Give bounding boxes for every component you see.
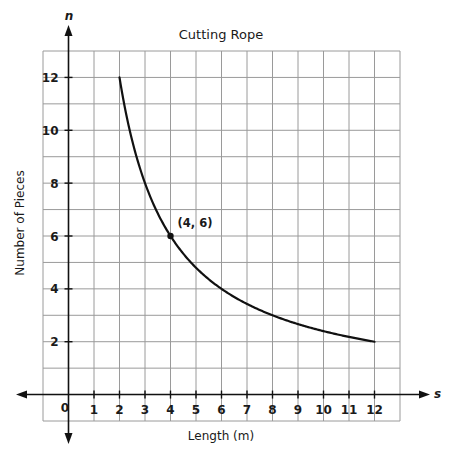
x-tick-label: 2 [115, 403, 123, 417]
arrow-left-icon [16, 391, 27, 399]
data-point-marker [167, 233, 173, 239]
x-tick-label: 1 [90, 403, 98, 417]
y-tick-label: 4 [50, 282, 58, 296]
x-tick-label: 12 [366, 403, 383, 417]
y-tick-label: 8 [50, 177, 58, 191]
y-axis-label: Number of Pieces [13, 170, 27, 275]
chart-canvas: 12345678910111224681012 Cutting Rope Len… [0, 0, 454, 458]
y-tick-label: 10 [42, 124, 59, 138]
y-tick-label: 2 [50, 335, 58, 349]
x-tick-label: 10 [315, 403, 332, 417]
x-tick-label: 4 [166, 403, 174, 417]
grid-lines [43, 51, 400, 421]
x-tick-label: 7 [243, 403, 251, 417]
y-tick-label: 12 [42, 71, 59, 85]
x-tick-label: 6 [217, 403, 225, 417]
x-tick-label: 3 [141, 403, 149, 417]
x-variable-label: s [434, 387, 441, 401]
x-tick-label: 9 [294, 403, 302, 417]
x-tick-label: 8 [268, 403, 276, 417]
x-tick-label: 5 [192, 403, 200, 417]
y-variable-label: n [65, 9, 74, 23]
axes [16, 25, 430, 444]
tick-labels: 12345678910111224681012 [42, 71, 383, 417]
point-annotation: (4, 6) [178, 216, 213, 230]
y-tick-label: 6 [50, 230, 58, 244]
tick-marks [65, 77, 375, 398]
origin-label: 0 [61, 401, 69, 415]
arrow-right-icon [419, 391, 430, 399]
x-tick-label: 11 [341, 403, 358, 417]
arrow-up-icon [65, 25, 73, 36]
arrow-down-icon [65, 433, 73, 444]
chart-title: Cutting Rope [179, 27, 263, 42]
x-axis-label: Length (m) [188, 429, 254, 443]
